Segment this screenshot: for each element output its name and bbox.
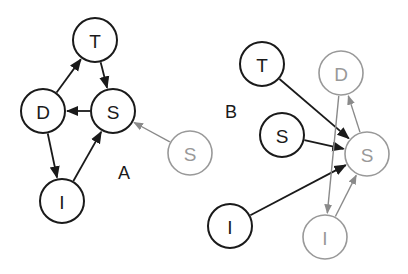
node-a_d: D — [21, 89, 65, 133]
node-label: D — [334, 64, 348, 85]
edge-b_s-to-b_s2 — [304, 140, 343, 149]
node-label: I — [227, 217, 232, 238]
panel-label-a: A — [118, 163, 130, 183]
edge-b_i2-to-b_s2 — [335, 175, 356, 216]
diagram-canvas: TSDISTDSSII A B — [0, 0, 408, 274]
edge-b_s2-to-b_d — [348, 96, 360, 132]
node-label: S — [107, 102, 120, 123]
node-label: I — [59, 192, 64, 213]
node-label: D — [36, 102, 50, 123]
edge-a_s2-to-a_s — [134, 122, 170, 141]
nodes-layer: TSDISTDSSII — [21, 18, 389, 259]
node-b_i2: I — [303, 215, 347, 259]
node-label: S — [276, 126, 289, 147]
node-b_t: T — [240, 42, 284, 86]
node-label: S — [184, 144, 197, 165]
node-b_s: S — [260, 113, 304, 157]
node-a_t: T — [73, 18, 117, 62]
node-label: T — [89, 31, 101, 52]
edge-b_d-to-b_i2 — [327, 96, 338, 213]
node-b_i: I — [208, 204, 252, 248]
node-label: T — [256, 55, 268, 76]
node-b_d: D — [319, 51, 363, 95]
node-label: S — [361, 145, 374, 166]
node-a_s2: S — [168, 131, 212, 175]
edge-a_d-to-a_t — [57, 59, 81, 92]
node-a_i: I — [40, 179, 84, 223]
node-a_s: S — [91, 89, 135, 133]
node-b_s2: S — [345, 132, 389, 176]
panel-label-b: B — [225, 102, 237, 122]
edge-a_t-to-a_s — [101, 62, 107, 87]
edge-a_i-to-a_s — [73, 132, 101, 181]
edge-a_d-to-a_i — [48, 134, 57, 178]
node-label: I — [322, 228, 327, 249]
